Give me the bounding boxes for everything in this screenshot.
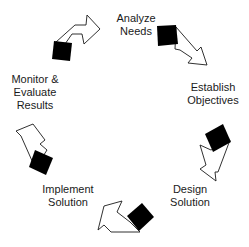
label-line: Analyze [106, 12, 166, 25]
label-line: Establish [180, 81, 246, 94]
label-line: Evaluate [6, 86, 64, 99]
step-label-implement-solution: Implement Solution [36, 183, 100, 209]
step-label-establish-objectives: Establish Objectives [180, 81, 246, 107]
arrow-design-to-implement [98, 201, 154, 232]
arrow-establish-to-design [200, 124, 231, 181]
step-label-design-solution: Design Solution [160, 183, 220, 209]
label-line: Implement [36, 183, 100, 196]
arrow-monitor-to-analyze [52, 15, 100, 61]
arrow-implement-to-monitor [16, 124, 53, 175]
label-line: Monitor & [6, 73, 64, 86]
arrow-body [56, 15, 100, 44]
label-line: Solution [160, 196, 220, 209]
step-label-monitor-evaluate-results: Monitor & Evaluate Results [6, 73, 64, 112]
arrow-block [52, 41, 72, 61]
arrow-body [175, 27, 207, 65]
label-line: Needs [106, 25, 166, 38]
label-line: Objectives [180, 94, 246, 107]
cycle-diagram: Analyze Needs Establish Objectives Desig… [0, 0, 249, 247]
label-line: Solution [36, 196, 100, 209]
step-label-analyze-needs: Analyze Needs [106, 12, 166, 38]
label-line: Design [160, 183, 220, 196]
label-line: Results [6, 99, 64, 112]
